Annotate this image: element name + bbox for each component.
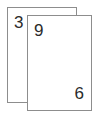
card-front-corner-value-top-left: 9: [34, 22, 43, 39]
card-back-corner-value-top-left: 3: [14, 14, 23, 31]
card-front-corner-value-bottom-right: 6: [75, 85, 84, 102]
card-front[interactable]: 9 6: [27, 15, 92, 111]
card-stack-canvas: 3 9 6: [0, 0, 99, 119]
